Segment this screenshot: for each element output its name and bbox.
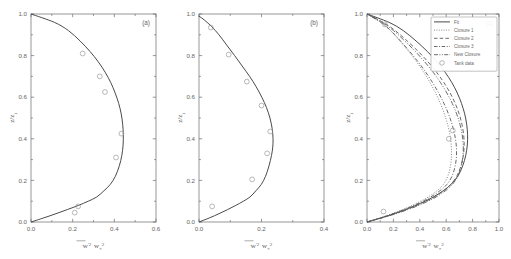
legend-label: New Closure [454, 52, 481, 57]
legend-label: Closure 1 [454, 28, 474, 33]
y-tick-label: 0.6 [354, 93, 363, 100]
data-marker [80, 51, 85, 56]
y-tick-label: 0.2 [186, 177, 195, 184]
y-tick-label: 1.0 [354, 10, 363, 17]
panel-a-plot: 0.00.20.40.60.00.20.40.60.81.0(a)w'2 w*2… [0, 0, 168, 259]
x-axis-title: w'2 w*2 [422, 242, 444, 252]
data-marker [259, 103, 264, 108]
legend-label: Closure 3 [454, 44, 474, 49]
data-marker [103, 90, 108, 95]
x-axis-title: w'2 w*2 [251, 242, 273, 252]
legend-label: Tank data [454, 61, 474, 66]
data-marker [244, 79, 249, 84]
y-tick-label: 0.0 [18, 218, 27, 225]
y-tick-label: 0.8 [18, 52, 27, 59]
legend-label: Fit [454, 20, 460, 25]
data-marker [114, 155, 119, 160]
panel-b-plot: 0.00.20.40.00.20.40.60.81.0(b)w'2 w*2z/z… [168, 0, 336, 259]
x-tick-label: 0.6 [152, 225, 161, 232]
data-marker [268, 129, 273, 134]
x-axis-title: w'2 w*2 [83, 242, 105, 252]
y-tick-label: 0.8 [354, 52, 363, 59]
y-tick-label: 0.0 [186, 218, 195, 225]
y-axis-title: z/zi [8, 113, 18, 123]
x-tick-label: 0.0 [27, 225, 36, 232]
data-marker [226, 52, 231, 57]
panel-c-plot: 0.00.20.40.60.81.00.00.20.40.60.81.0(c)w… [336, 0, 511, 259]
x-tick-label: 0.2 [257, 225, 266, 232]
data-marker [265, 151, 270, 156]
y-tick-label: 0.0 [354, 218, 363, 225]
y-tick-label: 1.0 [186, 10, 195, 17]
series-curve [31, 14, 123, 222]
figure-container: 0.00.20.40.60.00.20.40.60.81.0(a)w'2 w*2… [0, 0, 511, 259]
x-tick-label: 0.8 [468, 225, 477, 232]
data-marker [250, 177, 255, 182]
legend-label: Closure 2 [454, 36, 474, 41]
y-tick-label: 0.2 [354, 177, 363, 184]
x-tick-label: 0.6 [442, 225, 451, 232]
x-tick-label: 0.0 [363, 225, 372, 232]
panel-b: 0.00.20.40.00.20.40.60.81.0(b)w'2 w*2z/z… [168, 0, 336, 259]
plot-frame [199, 14, 324, 222]
x-tick-label: 1.0 [495, 225, 504, 232]
y-tick-label: 0.6 [18, 93, 27, 100]
y-tick-label: 0.4 [354, 135, 363, 142]
x-tick-label: 0.4 [415, 225, 424, 232]
y-tick-label: 0.2 [18, 177, 27, 184]
data-marker [210, 204, 215, 209]
y-tick-label: 0.6 [186, 93, 195, 100]
y-tick-label: 0.4 [18, 135, 27, 142]
x-tick-label: 0.2 [68, 225, 77, 232]
data-marker [381, 209, 386, 214]
y-axis-title: z/zi [176, 113, 186, 123]
y-axis-title: z/zi [344, 113, 354, 123]
y-tick-label: 1.0 [18, 10, 27, 17]
y-tick-label: 0.4 [186, 135, 195, 142]
data-marker [450, 128, 455, 133]
series-curve [199, 16, 273, 222]
plot-frame [31, 14, 156, 222]
x-tick-label: 0.2 [389, 225, 398, 232]
data-marker [97, 74, 102, 79]
panel-label: (b) [310, 19, 318, 27]
panel-c: 0.00.20.40.60.81.00.00.20.40.60.81.0(c)w… [336, 0, 511, 259]
data-marker [72, 210, 77, 215]
x-tick-label: 0.4 [320, 225, 329, 232]
panel-a: 0.00.20.40.60.00.20.40.60.81.0(a)w'2 w*2… [0, 0, 168, 259]
y-tick-label: 0.8 [186, 52, 195, 59]
x-tick-label: 0.0 [195, 225, 204, 232]
x-tick-label: 0.4 [110, 225, 119, 232]
panel-label: (a) [142, 19, 150, 27]
